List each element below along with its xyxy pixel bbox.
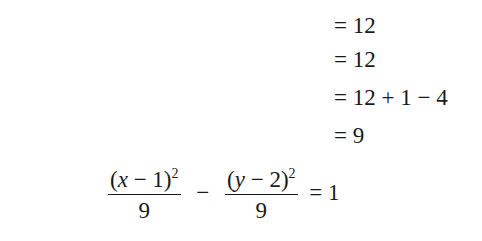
- equation-5-standard-form: (x − 1)2 9 − (y − 2)2 9 = 1: [108, 168, 340, 222]
- equation-2-rhs: = 12: [334, 48, 376, 71]
- equation-1-rhs: = 12: [334, 14, 376, 37]
- minus-operator: −: [196, 180, 209, 205]
- fraction-x: (x − 1)2 9: [108, 168, 181, 222]
- equation-3-rhs: = 12 + 1 − 4: [334, 86, 448, 109]
- fraction-y: (y − 2)2 9: [225, 168, 298, 222]
- fraction-y-denominator: 9: [225, 195, 298, 222]
- equation-5-rhs: = 1: [309, 180, 339, 205]
- equation-4-rhs: = 9: [334, 124, 364, 147]
- fraction-y-numerator: (y − 2)2: [225, 168, 298, 195]
- fraction-x-numerator: (x − 1)2: [108, 168, 181, 195]
- fraction-x-denominator: 9: [108, 195, 181, 222]
